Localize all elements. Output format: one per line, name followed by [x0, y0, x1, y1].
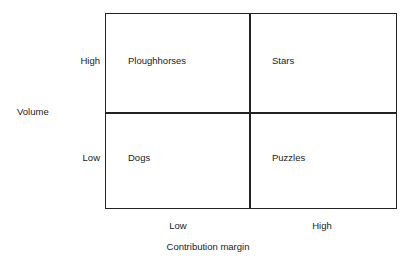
y-axis-tick-low: Low — [56, 152, 100, 163]
matrix-horizontal-divider — [105, 112, 397, 114]
x-axis-title-contribution-margin: Contribution margin — [0, 241, 416, 252]
matrix-outline — [105, 13, 397, 209]
x-axis-tick-high: High — [282, 220, 362, 231]
volume-contribution-margin-matrix: Ploughhorses Stars Dogs Puzzles Volume H… — [0, 0, 416, 261]
quadrant-label-puzzles: Puzzles — [272, 152, 305, 163]
y-axis-tick-high: High — [56, 55, 100, 66]
quadrant-label-ploughhorses: Ploughhorses — [128, 55, 186, 66]
x-axis-tick-low: Low — [138, 220, 218, 231]
quadrant-label-dogs: Dogs — [128, 152, 150, 163]
matrix-vertical-divider — [249, 13, 251, 209]
y-axis-title-volume: Volume — [17, 106, 49, 117]
quadrant-label-stars: Stars — [272, 55, 294, 66]
